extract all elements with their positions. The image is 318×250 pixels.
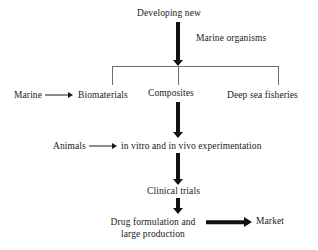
node-biomaterials: Biomaterials bbox=[78, 90, 128, 101]
arrow-head-icon bbox=[173, 132, 183, 138]
node-drug-formulation: Drug formulation and large production bbox=[103, 216, 203, 240]
arrow-shaft bbox=[176, 153, 180, 179]
bracket-horizontal-bar bbox=[112, 66, 279, 67]
connector-marine-to-biomaterials bbox=[45, 91, 73, 99]
connector-experimentation-to-clinical-trials bbox=[172, 153, 184, 185]
node-drug-formulation-line2: large production bbox=[121, 229, 185, 239]
connector-composites-to-experimentation bbox=[172, 102, 184, 138]
node-clinical-trials: Clinical trials bbox=[147, 186, 200, 197]
connector-animals-to-experimentation bbox=[89, 142, 117, 150]
node-composites: Composites bbox=[148, 88, 194, 99]
bracket-leg-left bbox=[112, 66, 113, 85]
node-developing-new: Developing new bbox=[137, 8, 201, 19]
arrow-head-icon bbox=[173, 179, 183, 185]
arrow-head-icon bbox=[68, 92, 73, 98]
arrow-shaft bbox=[176, 102, 180, 132]
connector-clinical-trials-to-drug-formulation bbox=[172, 198, 184, 214]
connector-developing-new-to-bracket bbox=[172, 22, 184, 66]
node-market: Market bbox=[256, 216, 284, 227]
arrow-head-icon bbox=[173, 208, 183, 214]
arrow-head-icon bbox=[244, 217, 252, 227]
node-marine: Marine bbox=[14, 90, 42, 101]
arrow-shaft bbox=[45, 95, 69, 96]
node-deep-sea-fisheries: Deep sea fisheries bbox=[227, 90, 298, 101]
arrow-shaft bbox=[89, 146, 113, 147]
arrow-shaft bbox=[206, 220, 245, 224]
arrow-shaft bbox=[176, 198, 180, 208]
node-drug-formulation-line1: Drug formulation and bbox=[111, 217, 196, 227]
arrow-shaft bbox=[176, 22, 180, 60]
node-marine-organisms: Marine organisms bbox=[196, 33, 266, 44]
flowchart-canvas: Developing new Marine organisms Marine B… bbox=[0, 0, 318, 250]
bracket-leg-center bbox=[178, 66, 179, 85]
node-animals: Animals bbox=[53, 141, 86, 152]
connector-drug-formulation-to-market bbox=[206, 217, 252, 227]
node-experimentation: in vitro and in vivo experimentation bbox=[121, 141, 262, 152]
bracket-leg-right bbox=[278, 66, 279, 85]
arrow-head-icon bbox=[112, 143, 117, 149]
